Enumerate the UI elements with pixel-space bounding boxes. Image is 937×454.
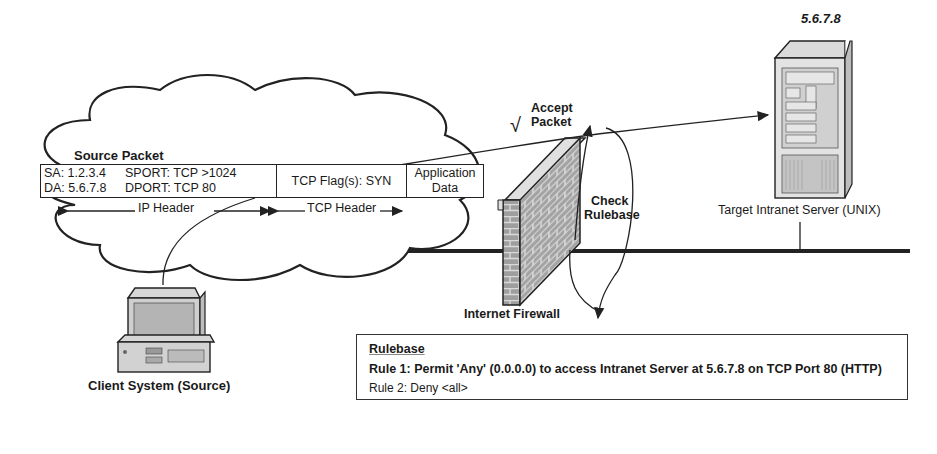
source-port: SPORT: TCP >1024 [125, 166, 237, 181]
client-computer-icon [118, 288, 214, 372]
check-rulebase-arrow [598, 128, 633, 318]
source-packet: SA: 1.2.3.4SPORT: TCP >1024 DA: 5.6.7.8D… [40, 164, 484, 198]
rulebase-panel: Rulebase Rule 1: Permit 'Any' (0.0.0.0) … [356, 334, 908, 400]
source-address: SA: 1.2.3.4 [44, 166, 125, 181]
destination-address: DA: 5.6.7.8 [44, 181, 125, 196]
server-tower-icon [775, 41, 852, 198]
tcp-header-label: TCP Header [305, 201, 378, 215]
packet-title: Source Packet [74, 148, 164, 163]
application-data-cell: Application Data [407, 165, 483, 197]
accept-packet-label: Accept Packet [531, 101, 573, 129]
rule-2: Rule 2: Deny <all> [369, 381, 895, 395]
server-ip-label: 5.6.7.8 [801, 11, 841, 26]
checkmark-icon: √ [510, 114, 521, 137]
packet-to-server-arrow [590, 115, 768, 135]
server-label: Target Intranet Server (UNIX) [718, 203, 881, 217]
ip-header-cell: SA: 1.2.3.4SPORT: TCP >1024 DA: 5.6.7.8D… [41, 165, 277, 197]
ip-header-label: IP Header [136, 201, 196, 215]
destination-port: DPORT: TCP 80 [125, 181, 216, 196]
check-rulebase-label: Check Rulebase [584, 194, 640, 222]
rulebase-title: Rulebase [369, 342, 895, 356]
client-label: Client System (Source) [88, 378, 230, 393]
rule-1: Rule 1: Permit 'Any' (0.0.0.0) to access… [369, 362, 895, 377]
firewall-label: Internet Firewall [464, 307, 560, 321]
tcp-flags-cell: TCP Flag(s): SYN [277, 165, 407, 197]
